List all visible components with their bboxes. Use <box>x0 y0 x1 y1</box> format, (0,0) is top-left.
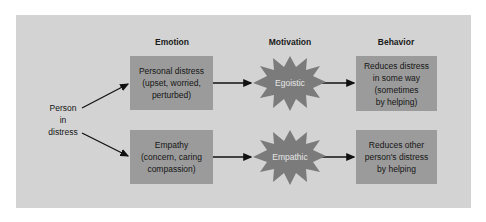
emotion-empathy-box: Empathy (concern, caring compassion) <box>130 130 213 184</box>
behavior-empathic-box: Reduces other person's distress by helpi… <box>356 130 437 184</box>
box-line: by helping) <box>364 96 429 108</box>
box-line: Personal distress <box>139 65 204 77</box>
emotion-personal-distress-box: Personal distress (upset, worried, pertu… <box>130 56 213 110</box>
behavior-egoistic-box: Reduces distress in some way (sometimes … <box>356 56 437 111</box>
motivation-empathic-label: Empathic <box>260 152 320 162</box>
box-line: (sometimes <box>364 84 429 96</box>
box-line: Empathy <box>141 139 202 151</box>
box-line: Reduces distress <box>364 60 429 72</box>
box-line: by helping <box>365 163 429 175</box>
arrow-person-to-personal-distress <box>82 84 128 108</box>
connectors-and-bursts <box>0 0 486 222</box>
motivation-egoistic-label: Egoistic <box>260 78 320 88</box>
box-line: (concern, caring <box>141 151 202 163</box>
box-line: (upset, worried, <box>139 77 204 89</box>
box-line: in some way <box>364 72 429 84</box>
box-line: person's distress <box>365 151 429 163</box>
box-line: perturbed) <box>139 89 204 101</box>
arrow-person-to-empathy <box>82 133 128 156</box>
box-line: Reduces other <box>365 139 429 151</box>
box-line: compassion) <box>141 163 202 175</box>
